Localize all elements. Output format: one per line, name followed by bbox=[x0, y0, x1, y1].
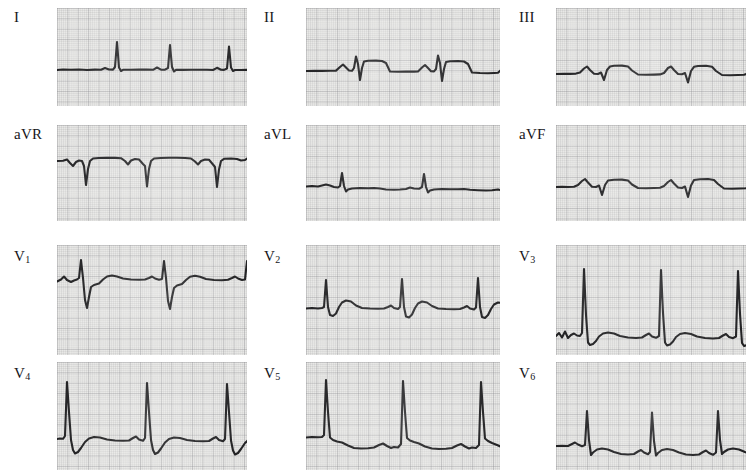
ecg-sheet: IIIIIIaVRaVLaVFV1V2V3V4V5V6 bbox=[0, 0, 756, 473]
lead-label-v3: V3 bbox=[519, 249, 535, 265]
ecg-strip-v3 bbox=[556, 245, 746, 355]
lead-label-i: I bbox=[14, 10, 19, 25]
ecg-strip-iii bbox=[556, 8, 746, 106]
lead-label-v4: V4 bbox=[14, 366, 30, 382]
ecg-trace-svg bbox=[57, 8, 247, 106]
lead-label-avf: aVF bbox=[519, 127, 546, 142]
ecg-waveform-v3 bbox=[556, 269, 746, 346]
lead-label-v6: V6 bbox=[519, 366, 535, 382]
ecg-strip-ii bbox=[306, 8, 500, 106]
lead-label-v1: V1 bbox=[14, 249, 30, 265]
ecg-trace-svg bbox=[556, 125, 746, 221]
ecg-waveform-v6 bbox=[556, 411, 746, 456]
ecg-strip-v2 bbox=[306, 245, 500, 355]
ecg-waveform-iii bbox=[556, 65, 746, 84]
ecg-waveform-avf bbox=[556, 179, 746, 198]
ecg-trace-svg bbox=[306, 362, 500, 470]
ecg-trace-svg bbox=[556, 8, 746, 106]
ecg-trace-svg bbox=[57, 125, 247, 221]
ecg-trace-svg bbox=[306, 125, 500, 221]
lead-label-iii: III bbox=[519, 10, 535, 25]
ecg-trace-svg bbox=[57, 245, 247, 355]
ecg-trace-svg bbox=[556, 362, 746, 470]
ecg-strip-v6 bbox=[556, 362, 746, 470]
ecg-strip-v5 bbox=[306, 362, 500, 470]
lead-label-v5: V5 bbox=[264, 366, 280, 382]
lead-label-ii: II bbox=[264, 10, 275, 25]
ecg-trace-svg bbox=[556, 245, 746, 355]
ecg-strip-v1 bbox=[57, 245, 247, 355]
ecg-trace-svg bbox=[57, 362, 247, 470]
ecg-strip-i bbox=[57, 8, 247, 106]
lead-label-v2: V2 bbox=[264, 249, 280, 265]
ecg-strip-avr bbox=[57, 125, 247, 221]
ecg-trace-svg bbox=[306, 245, 500, 355]
ecg-waveform-avr bbox=[57, 158, 247, 187]
ecg-waveform-v5 bbox=[306, 380, 500, 451]
ecg-waveform-ii bbox=[306, 56, 500, 84]
ecg-waveform-avl bbox=[306, 173, 500, 194]
ecg-waveform-v2 bbox=[306, 278, 500, 318]
ecg-waveform-v4 bbox=[57, 382, 247, 455]
ecg-waveform-i bbox=[57, 42, 247, 72]
ecg-strip-avf bbox=[556, 125, 746, 221]
ecg-trace-svg bbox=[306, 8, 500, 106]
ecg-strip-v4 bbox=[57, 362, 247, 470]
lead-label-avl: aVL bbox=[264, 127, 292, 142]
ecg-strip-avl bbox=[306, 125, 500, 221]
lead-label-avr: aVR bbox=[14, 127, 42, 142]
ecg-waveform-v1 bbox=[57, 260, 247, 309]
